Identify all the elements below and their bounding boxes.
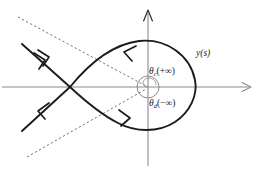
trajectory-branch-lower-left xyxy=(22,87,70,131)
phase-portrait-figure: y(s) θc(+∞) θd(−∞) xyxy=(0,0,259,169)
theta-plus-label: θc(+∞) xyxy=(149,66,175,77)
asymptote-theta-d-line xyxy=(27,89,146,157)
axes-group xyxy=(2,10,251,166)
direction-arrows-group xyxy=(34,46,136,126)
trajectory-loop-curve xyxy=(70,41,196,130)
theta-minus-label: θd(−∞) xyxy=(149,98,175,109)
theta-plus-argument: (+∞) xyxy=(157,66,175,77)
theta-minus-argument: (−∞) xyxy=(157,98,175,109)
arrowhead-upper-curve-icon xyxy=(124,46,136,61)
diagram-canvas: y(s) θc(+∞) θd(−∞) xyxy=(0,0,259,169)
trajectory-branch-upper-left xyxy=(22,44,70,87)
curve-label: y(s) xyxy=(195,48,210,59)
labels-group: y(s) θc(+∞) θd(−∞) xyxy=(149,48,210,109)
trajectory-group xyxy=(22,41,196,131)
